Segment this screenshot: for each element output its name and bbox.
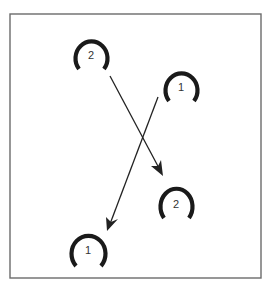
- diagram-frame: [10, 14, 261, 278]
- arrow-line: [110, 97, 158, 224]
- horseshoe-1-start: 1: [165, 73, 197, 101]
- arrow-2-path: [110, 76, 163, 176]
- horseshoe-2-end: 2: [160, 189, 192, 218]
- arrow-line: [110, 76, 160, 170]
- horseshoe-swap-diagram: 2 1 2 1: [0, 0, 275, 301]
- horseshoe-label: 1: [85, 244, 91, 256]
- horseshoe-label: 2: [173, 198, 179, 210]
- arrow-head-icon: [151, 160, 163, 176]
- horseshoe-label: 2: [88, 49, 94, 61]
- horseshoe-2-start: 2: [75, 41, 107, 69]
- horseshoe-1-end: 1: [71, 236, 105, 266]
- horseshoe-label: 1: [178, 81, 184, 93]
